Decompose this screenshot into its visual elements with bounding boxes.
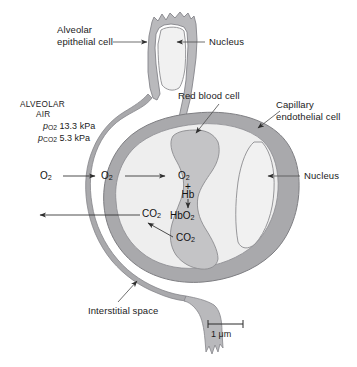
gas-co2-rbc: CO2: [176, 232, 195, 244]
gas-o2-interstitial: O2: [101, 170, 113, 182]
gas-co2-plasma: CO2: [142, 208, 161, 220]
label-nucleus-right: Nucleus: [304, 170, 339, 182]
label-red-blood-cell: Red blood cell: [178, 90, 240, 102]
label-capillary-endothelial-cell-line1: Capillary: [276, 99, 314, 110]
label-alveolar-air-line1: ALVEOLAR: [20, 100, 65, 110]
alveolar-capillary-diagram: Alveolar epithelial cell Nucleus Red blo…: [0, 0, 357, 367]
pco2-value: 5.3 kPa: [60, 133, 91, 143]
label-alveolar-epithelial-cell-line2: epithelial cell: [57, 36, 113, 47]
pco2-subscript: CO2: [43, 136, 57, 143]
label-nucleus-top: Nucleus: [209, 36, 244, 48]
label-interstitial-space: Interstitial space: [88, 305, 158, 317]
gas-hbo2: HbO2: [170, 210, 195, 222]
pco2-value-row: pCO2 5.3 kPa: [38, 133, 90, 143]
po2-value: 13.3 kPa: [60, 121, 96, 131]
label-alveolar-air-line2: AIR: [36, 110, 51, 120]
label-alveolar-epithelial-cell: Alveolar epithelial cell: [57, 24, 113, 47]
leader-interstitial-space: [118, 281, 137, 302]
label-capillary-endothelial-cell: Capillary endothelial cell: [276, 99, 340, 122]
gas-hb: Hb: [176, 189, 200, 200]
po2-subscript: O2: [48, 124, 57, 131]
gas-o2-alveolar: O2: [40, 170, 52, 182]
label-alveolar-epithelial-cell-line1: Alveolar: [57, 24, 92, 35]
scale-bar-label: 1 μm: [211, 329, 231, 339]
po2-value-row: pO2 13.3 kPa: [43, 121, 95, 131]
label-capillary-endothelial-cell-line2: endothelial cell: [276, 111, 340, 122]
